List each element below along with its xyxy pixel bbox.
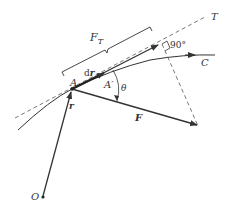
label-a: A: [69, 77, 77, 88]
label-t: T: [211, 11, 219, 22]
work-diagram: FT A A′ θ dr r F O C T 90°: [0, 0, 228, 210]
label-dr: dr: [84, 68, 96, 78]
label-theta: θ: [121, 83, 127, 93]
position-vector-arrow: [43, 92, 71, 196]
point-o: [41, 195, 44, 198]
tangent-line: [15, 17, 205, 118]
label-a-prime: A′: [103, 79, 114, 90]
label-90: 90°: [170, 40, 186, 50]
angle-arrowhead: [114, 95, 119, 101]
label-r: r: [69, 101, 75, 111]
label-o: O: [31, 191, 39, 202]
label-c: C: [201, 57, 209, 68]
label-f-t: FT: [89, 31, 104, 46]
label-f: F: [134, 112, 143, 123]
tangential-brace: [62, 27, 152, 76]
